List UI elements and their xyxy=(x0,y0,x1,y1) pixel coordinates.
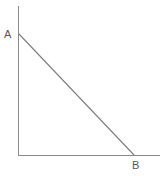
segment-ab-line xyxy=(19,34,134,155)
figure-canvas xyxy=(0,0,162,176)
geometry-figure: A B xyxy=(0,0,162,176)
point-label-b: B xyxy=(132,159,139,171)
point-label-a: A xyxy=(4,28,11,40)
